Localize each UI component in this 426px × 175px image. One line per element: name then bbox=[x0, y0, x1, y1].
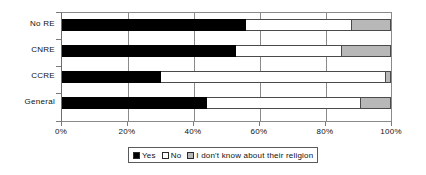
legend-entry-dont-know: I don't know about their religion bbox=[187, 151, 313, 160]
x-axis-ticklabel-2: 40% bbox=[173, 127, 213, 136]
x-axis-ticklabel-0: 0% bbox=[41, 127, 81, 136]
bar-segment-dont-know bbox=[361, 97, 391, 109]
legend-label-yes: Yes bbox=[142, 151, 156, 160]
gray-swatch-icon bbox=[187, 152, 194, 159]
bar-row-ccre bbox=[62, 71, 391, 83]
bar-segment-no bbox=[236, 45, 341, 57]
bar-row-general bbox=[62, 97, 391, 109]
bar-segment-yes bbox=[62, 19, 246, 31]
bar-segment-dont-know bbox=[386, 71, 391, 83]
x-axis-ticklabel-1: 20% bbox=[107, 127, 147, 136]
bar-segment-yes bbox=[62, 45, 236, 57]
chart-screenshot: No RE CNRE CCRE General bbox=[0, 0, 426, 175]
bar-segment-yes bbox=[62, 97, 207, 109]
x-axis-tick-3 bbox=[259, 122, 260, 126]
x-axis-tick-5 bbox=[391, 122, 392, 126]
x-axis-tick-1 bbox=[127, 122, 128, 126]
legend-entry-yes: Yes bbox=[133, 151, 156, 160]
bar-row-no-re bbox=[62, 19, 391, 31]
y-axis-label-2: CCRE bbox=[0, 70, 55, 82]
y-axis-label-3: General bbox=[0, 96, 55, 108]
x-axis-tick-2 bbox=[193, 122, 194, 126]
bar-segment-dont-know bbox=[352, 19, 391, 31]
bar-segment-no bbox=[246, 19, 351, 31]
x-axis-tick-0 bbox=[61, 122, 62, 126]
bar-row-cnre bbox=[62, 45, 391, 57]
black-swatch-icon bbox=[133, 152, 140, 159]
plot-area bbox=[61, 12, 392, 122]
y-axis-label-0: No RE bbox=[0, 18, 55, 30]
bar-segment-no bbox=[207, 97, 362, 109]
legend-label-no: No bbox=[171, 151, 182, 160]
chart-legend: Yes No I don't know about their religion bbox=[128, 147, 318, 163]
legend-entry-no: No bbox=[162, 151, 182, 160]
bar-segment-yes bbox=[62, 71, 161, 83]
x-axis-ticklabel-3: 60% bbox=[239, 127, 279, 136]
x-axis-tick-4 bbox=[325, 122, 326, 126]
x-axis-ticklabel-4: 80% bbox=[305, 127, 345, 136]
bar-segment-no bbox=[161, 71, 386, 83]
y-axis-label-1: CNRE bbox=[0, 44, 55, 56]
legend-label-dont-know: I don't know about their religion bbox=[196, 151, 313, 160]
x-axis-ticklabel-5: 100% bbox=[371, 127, 411, 136]
bar-segment-dont-know bbox=[342, 45, 391, 57]
white-swatch-icon bbox=[162, 152, 169, 159]
